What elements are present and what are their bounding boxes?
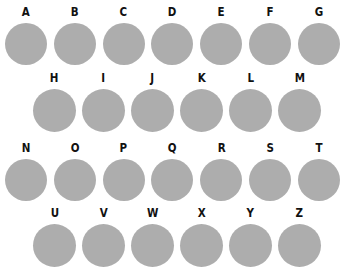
circle-label-I: I [102,72,106,85]
labeled-circle-Z[interactable]: Z [278,207,321,267]
labeled-circle-O[interactable]: O [54,142,96,201]
circle-shape-J[interactable] [131,89,174,132]
circle-label-U: U [50,207,58,220]
circle-shape-V[interactable] [82,224,125,267]
circle-shape-D[interactable] [151,23,193,65]
circle-label-H: H [50,72,59,85]
circle-label-J: J [151,72,155,85]
circle-label-N: N [22,142,31,155]
circle-shape-Z[interactable] [278,224,321,267]
labeled-circle-V[interactable]: V [82,207,125,267]
circle-shape-W[interactable] [131,224,174,267]
circle-shape-N[interactable] [5,159,47,201]
labeled-circle-T[interactable]: T [298,142,340,201]
labeled-circle-D[interactable]: D [151,6,193,65]
circle-shape-A[interactable] [5,23,47,65]
labeled-circle-F[interactable]: F [249,6,291,65]
circle-shape-Y[interactable] [229,224,272,267]
labeled-circle-E[interactable]: E [200,6,242,65]
labeled-circle-I[interactable]: I [82,72,125,132]
circle-shape-G[interactable] [298,23,340,65]
circle-row-1: A B C D E F G [5,6,341,65]
circle-label-Y: Y [247,207,254,220]
circle-shape-K[interactable] [180,89,223,132]
labeled-circle-X[interactable]: X [180,207,223,267]
labeled-circle-W[interactable]: W [131,207,174,267]
circle-shape-T[interactable] [298,159,340,201]
circle-row-3: N O P Q R S T [5,142,341,201]
labeled-circle-U[interactable]: U [33,207,76,267]
circle-label-F: F [266,6,273,19]
circle-label-P: P [120,142,128,155]
circle-shape-O[interactable] [54,159,96,201]
labeled-circle-B[interactable]: B [54,6,96,65]
labeled-circle-S[interactable]: S [249,142,291,201]
circle-label-L: L [247,72,254,85]
circle-label-E: E [218,6,225,19]
circle-shape-Q[interactable] [151,159,193,201]
circle-label-Z: Z [296,207,303,220]
circle-shape-U[interactable] [33,224,76,267]
labeled-circle-A[interactable]: A [5,6,47,65]
circle-row-2: H I J K L M [33,72,341,132]
labeled-circle-J[interactable]: J [131,72,174,132]
circle-label-X: X [198,207,206,220]
circle-shape-E[interactable] [200,23,242,65]
circle-label-Q: Q [168,142,177,155]
labeled-circle-Y[interactable]: Y [229,207,272,267]
circle-label-K: K [197,72,205,85]
circle-label-T: T [315,142,322,155]
labeled-circle-Q[interactable]: Q [151,142,193,201]
circle-label-W: W [147,207,158,220]
labeled-circle-N[interactable]: N [5,142,47,201]
circle-grid-board: A B C D E F G H [0,0,341,272]
circle-label-C: C [120,6,128,19]
circle-shape-L[interactable] [229,89,272,132]
labeled-circle-P[interactable]: P [103,142,145,201]
circle-row-4: U V W X Y Z [33,207,341,267]
labeled-circle-H[interactable]: H [33,72,76,132]
circle-shape-B[interactable] [54,23,96,65]
circle-label-G: G [315,6,323,19]
circle-label-O: O [70,142,79,155]
circle-shape-F[interactable] [249,23,291,65]
circle-label-D: D [168,6,177,19]
labeled-circle-G[interactable]: G [298,6,340,65]
circle-shape-X[interactable] [180,224,223,267]
labeled-circle-L[interactable]: L [229,72,272,132]
circle-shape-R[interactable] [200,159,242,201]
labeled-circle-R[interactable]: R [200,142,242,201]
circle-label-B: B [71,6,79,19]
circle-shape-I[interactable] [82,89,125,132]
labeled-circle-M[interactable]: M [278,72,321,132]
circle-label-M: M [294,72,304,85]
circle-label-V: V [99,207,107,220]
circle-label-S: S [266,142,273,155]
labeled-circle-K[interactable]: K [180,72,223,132]
circle-shape-M[interactable] [278,89,321,132]
circle-shape-S[interactable] [249,159,291,201]
circle-label-A: A [22,6,30,19]
circle-shape-P[interactable] [103,159,145,201]
labeled-circle-C[interactable]: C [103,6,145,65]
circle-shape-C[interactable] [103,23,145,65]
circle-shape-H[interactable] [33,89,76,132]
circle-label-R: R [217,142,225,155]
